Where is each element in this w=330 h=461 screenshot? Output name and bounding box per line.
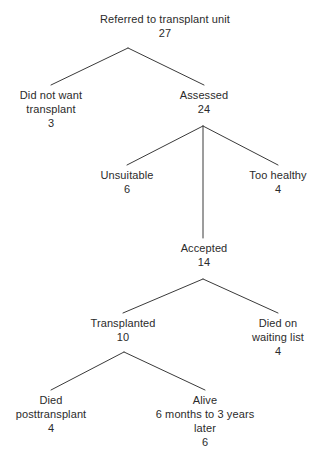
node-count-referred: 27 <box>100 26 230 40</box>
node-assessed: Assessed24 <box>180 88 229 116</box>
edge-layer <box>0 0 330 461</box>
node-label-did-not-want-transplant: transplant <box>20 102 82 116</box>
edge-referred-to-assessed <box>128 48 204 85</box>
node-count-accepted: 14 <box>181 255 228 269</box>
transplant-pathway-flowchart: Referred to transplant unit27Did not wan… <box>0 0 330 461</box>
node-did-not-want-transplant: Did not wanttransplant3 <box>20 88 82 130</box>
node-accepted: Accepted14 <box>181 241 228 269</box>
node-unsuitable: Unsuitable6 <box>101 168 154 196</box>
node-too-healthy: Too healthy4 <box>249 168 306 196</box>
edge-assessed-to-too-healthy <box>203 126 278 165</box>
node-count-died-on-waiting-list: 4 <box>252 344 304 358</box>
node-label-did-not-want-transplant: Did not want <box>20 88 82 102</box>
node-label-unsuitable: Unsuitable <box>101 168 154 182</box>
node-died-posttransplant: Diedposttransplant4 <box>16 393 87 435</box>
node-count-unsuitable: 6 <box>101 182 154 196</box>
node-label-alive: 6 months to 3 years <box>156 407 255 421</box>
node-transplanted: Transplanted10 <box>91 316 156 344</box>
node-label-transplanted: Transplanted <box>91 316 156 330</box>
node-label-died-on-waiting-list: Died on <box>252 316 304 330</box>
node-count-died-posttransplant: 4 <box>16 421 87 435</box>
edge-accepted-to-died-on-waiting-list <box>203 279 278 313</box>
node-count-transplanted: 10 <box>91 330 156 344</box>
edge-referred-to-did-not-want-transplant <box>51 48 128 85</box>
edge-assessed-to-unsuitable <box>127 126 203 165</box>
node-label-accepted: Accepted <box>181 241 228 255</box>
node-label-died-on-waiting-list: waiting list <box>252 330 304 344</box>
node-referred: Referred to transplant unit27 <box>100 12 230 40</box>
node-label-alive: later <box>156 421 255 435</box>
node-alive: Alive6 months to 3 yearslater6 <box>156 393 255 449</box>
node-label-alive: Alive <box>156 393 255 407</box>
edge-accepted-to-transplanted <box>123 279 203 313</box>
node-label-died-posttransplant: posttransplant <box>16 407 87 421</box>
node-label-referred: Referred to transplant unit <box>100 12 230 26</box>
edge-transplanted-to-alive <box>124 352 205 390</box>
node-count-assessed: 24 <box>180 102 229 116</box>
node-label-too-healthy: Too healthy <box>249 168 306 182</box>
node-count-did-not-want-transplant: 3 <box>20 116 82 130</box>
node-label-died-posttransplant: Died <box>16 393 87 407</box>
node-count-too-healthy: 4 <box>249 182 306 196</box>
node-died-on-waiting-list: Died onwaiting list4 <box>252 316 304 358</box>
node-label-assessed: Assessed <box>180 88 229 102</box>
edge-transplanted-to-died-posttransplant <box>51 352 124 390</box>
node-count-alive: 6 <box>156 435 255 449</box>
